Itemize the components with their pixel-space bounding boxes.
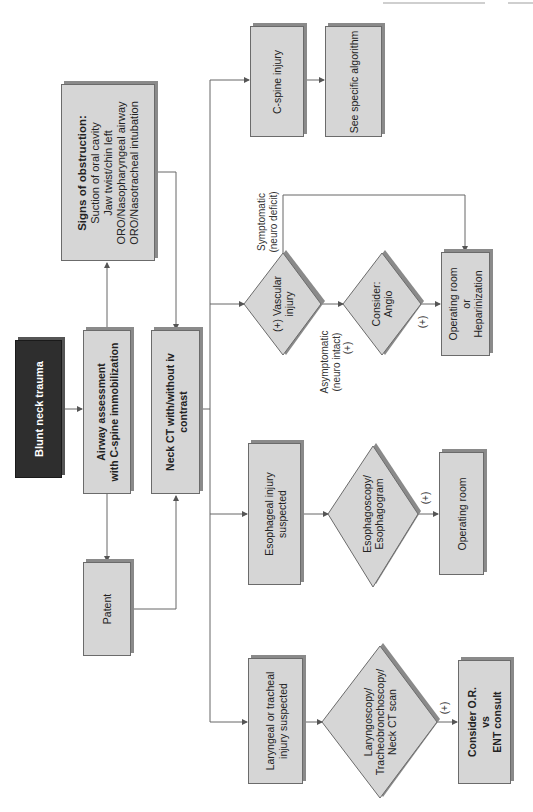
start-node-label: Blunt neck trauma: [32, 361, 45, 457]
asymptomatic-line-2: (neuro intact): [330, 331, 342, 394]
symptomatic-line-2: (neuro deficit): [267, 191, 279, 252]
or-heparinization-label: Operating room or Heparinization: [447, 268, 485, 341]
ent-line-2: vs: [478, 687, 491, 757]
obstruction-item: ORO/Nasotracheal intubation: [128, 101, 141, 245]
obstruction-label: Signs of obstruction: Suction of oral ca…: [76, 101, 141, 245]
neck-ct-line-1: Neck CT with/without iv: [163, 353, 176, 471]
esophageal-line-1: Esophageal injury: [262, 472, 275, 555]
patent-label: Patent: [101, 594, 114, 624]
plus-asymptomatic-label: (+): [342, 342, 354, 355]
airway-line-1: Airway assessment: [95, 343, 108, 482]
esophagoscopy-line-2: Esophagogram: [373, 475, 385, 553]
plus-angio-label: (+): [417, 316, 429, 329]
cspine-injury-label: C-spine injury: [271, 49, 284, 113]
ent-line-1: Consider O.R.: [466, 687, 479, 757]
vascular-line-2: injury: [283, 276, 295, 332]
laryngeal-injury-node: Laryngeal or tracheal injury suspected: [248, 658, 303, 784]
laryngeal-line-1: Laryngeal or tracheal: [263, 672, 276, 771]
laryngoscopy-line-1: Laryngoscopy/: [362, 669, 374, 775]
start-node-blunt-neck-trauma: Blunt neck trauma: [15, 340, 62, 478]
consider-angio-label: Consider: Angio: [370, 282, 394, 327]
neck-ct-node: Neck CT with/without iv contrast: [151, 330, 200, 494]
plus-esophagoscopy-label: (+): [420, 492, 432, 505]
cspine-injury-node: C-spine injury: [250, 26, 304, 137]
see-specific-algorithm-label: See specific algorithm: [347, 30, 360, 133]
signs-of-obstruction-node: Signs of obstruction: Suction of oral ca…: [61, 84, 155, 261]
laryngoscopy-line-2: Tracheobronchoscopy/: [374, 669, 386, 775]
symptomatic-edge-label: Symptomatic (neuro deficit): [256, 191, 279, 252]
esophageal-injury-label: Esophageal injury suspected: [262, 472, 287, 555]
angio-line-2: Angio: [382, 282, 394, 327]
obstruction-item: Jaw twist/chin left: [102, 101, 115, 245]
see-specific-algorithm-node: See specific algorithm: [325, 26, 382, 137]
obstruction-item: Suction of oral cavity: [89, 101, 102, 245]
airway-line-2: with C-spine immobilization: [107, 343, 120, 482]
vascular-injury-label: (+) Vascular injury: [271, 276, 295, 332]
laryngoscopy-line-3: Neck CT scan: [386, 669, 398, 775]
laryngoscopy-label: Laryngoscopy/ Tracheobronchoscopy/ Neck …: [362, 669, 398, 775]
neck-ct-line-2: contrast: [176, 353, 189, 471]
asymptomatic-edge-label: Asymptomatic (neuro intact): [319, 331, 342, 394]
obstruction-item: ORO/Nasopharyngeal airway: [115, 101, 128, 245]
patent-node: Patent: [83, 562, 131, 656]
consider-or-ent-label: Consider O.R. vs ENT consult: [466, 687, 504, 757]
or-heparin-line-2: or: [459, 268, 472, 341]
obstruction-heading: Signs of obstruction:: [76, 101, 89, 245]
or-heparin-line-1: Operating room: [447, 268, 460, 341]
airway-assessment-label: Airway assessment with C-spine immobiliz…: [95, 343, 120, 482]
airway-assessment-node: Airway assessment with C-spine immobiliz…: [83, 330, 131, 494]
ent-line-3: ENT consult: [491, 687, 504, 757]
esophagoscopy-line-1: Esophagoscopy/: [361, 475, 373, 553]
symptomatic-line-1: Symptomatic: [256, 191, 268, 252]
esophageal-line-2: suspected: [275, 472, 288, 555]
asymptomatic-line-1: Asymptomatic: [319, 331, 331, 394]
neck-ct-label: Neck CT with/without iv contrast: [163, 353, 188, 471]
vascular-line-1: (+) Vascular: [271, 276, 283, 332]
laryngeal-injury-label: Laryngeal or tracheal injury suspected: [263, 672, 288, 771]
plus-laryngoscopy-label: (+): [439, 702, 451, 715]
consider-or-ent-node: Consider O.R. vs ENT consult: [458, 660, 511, 784]
or-heparinization-node: Operating room or Heparinization: [441, 252, 490, 356]
laryngeal-line-2: injury suspected: [276, 672, 289, 771]
or-heparin-line-3: Heparinization: [472, 268, 485, 341]
operating-room-node: Operating room: [439, 452, 484, 575]
esophagoscopy-label: Esophagoscopy/ Esophagogram: [361, 475, 385, 553]
esophageal-injury-node: Esophageal injury suspected: [248, 443, 301, 585]
angio-line-1: Consider:: [370, 282, 382, 327]
operating-room-label: Operating room: [455, 477, 468, 550]
